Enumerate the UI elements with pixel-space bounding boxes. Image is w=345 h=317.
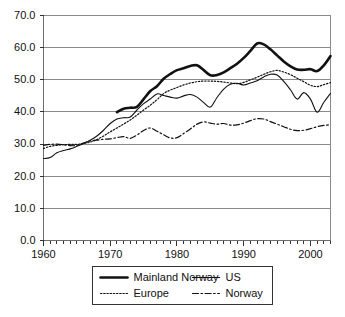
y-tick-label-30: 30.0 [14,137,35,149]
y-tick-label-60: 60.0 [14,41,35,53]
x-tick-label-1970: 1970 [98,248,122,260]
x-tick-label-1980: 1980 [165,248,189,260]
y-tick-label-40: 40.0 [14,105,35,117]
legend-label-us: US [226,271,241,283]
x-tick-label-2000: 2000 [298,248,322,260]
line-chart: 0.010.020.030.040.050.060.070.0 19601970… [0,0,345,317]
chart-legend: Mainland NorwayUSEuropeNorway [93,267,273,305]
legend-label-norway: Norway [226,287,264,299]
y-tick-label-20: 20.0 [14,170,35,182]
x-tick-label-1990: 1990 [231,248,255,260]
legend-label-europe: Europe [134,287,169,299]
chart-figure: 0.010.020.030.040.050.060.070.0 19601970… [0,0,345,317]
y-tick-label-10: 10.0 [14,202,35,214]
legend-label-mainland-norway: Mainland Norway [134,271,219,283]
y-tick-label-50: 50.0 [14,73,35,85]
x-tick-label-1960: 1960 [31,248,55,260]
y-tick-label-0: 0.0 [20,234,35,246]
y-tick-label-70: 70.0 [14,9,35,21]
